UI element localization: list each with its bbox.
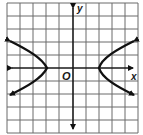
origin-label: O (62, 70, 71, 82)
x-axis-label: x (130, 71, 137, 82)
y-axis-label: y (76, 3, 83, 14)
axes (12, 8, 133, 129)
hyperbola-graph: y x O (0, 0, 143, 135)
